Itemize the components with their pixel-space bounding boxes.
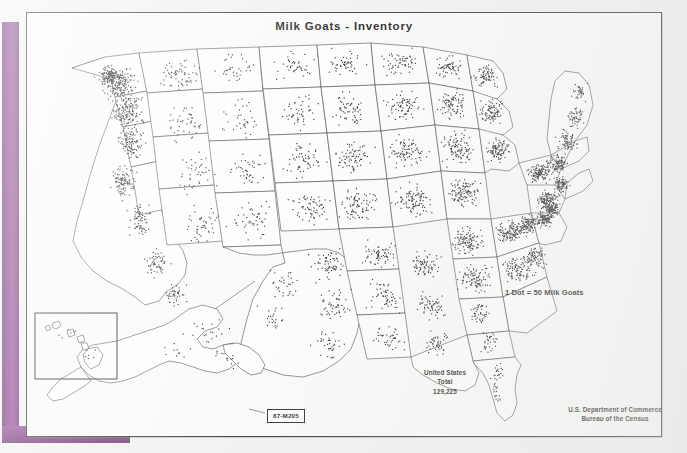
alaska-outline [47,305,265,401]
total-word-label: Total [390,377,500,386]
map-svg [27,13,662,437]
binder-strip-left-fill [2,22,19,443]
source-agency-block: U.S. Department of Commerce Bureau of th… [550,405,662,423]
map-frame: Milk Goats - Inventory [26,12,662,437]
source-bureau: Bureau of the Census [550,414,662,423]
national-total-block: United States Total 129,225 [390,368,500,396]
source-department: U.S. Department of Commerce [550,405,662,414]
binder-strip-left [2,22,19,443]
total-area-label: United States [390,368,500,377]
scanned-page: Milk Goats - Inventory [0,0,687,453]
map-code-badge: 87-M205 [267,409,305,423]
total-value: 129,225 [390,387,500,396]
legend-dot-value: 1 Dot = 50 Milk Goats [505,288,584,298]
map-canvas [27,13,662,437]
